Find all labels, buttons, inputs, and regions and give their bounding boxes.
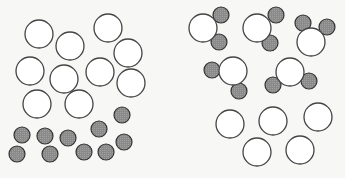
large-atom (286, 136, 314, 164)
reactants-panel (9, 14, 145, 162)
large-atom (94, 14, 122, 42)
small-atom (37, 128, 53, 144)
large-atom (297, 28, 325, 56)
small-atom (91, 121, 107, 137)
large-atom (259, 107, 287, 135)
products-panel (189, 7, 335, 166)
small-atom (9, 146, 25, 162)
large-atom (65, 90, 93, 118)
large-atom (25, 20, 53, 48)
small-atom (114, 107, 130, 123)
small-atom (98, 144, 114, 160)
small-atom (268, 7, 284, 23)
large-atom (304, 103, 332, 131)
small-atom (116, 134, 132, 150)
large-atom (243, 14, 271, 42)
molecule (189, 7, 229, 50)
large-atom (114, 39, 142, 67)
small-atom (14, 127, 30, 143)
large-atom (50, 65, 78, 93)
molecule (204, 57, 247, 99)
large-atom (189, 14, 217, 42)
small-atom (42, 146, 58, 162)
large-atom (117, 69, 145, 97)
molecule (265, 58, 317, 93)
particle-diagram (0, 0, 345, 178)
large-atom (219, 57, 247, 85)
small-atom (204, 62, 220, 78)
large-atom (16, 57, 44, 85)
small-atom (76, 144, 92, 160)
molecule (295, 15, 335, 56)
large-atom (86, 58, 114, 86)
large-atom (216, 110, 244, 138)
large-atom (23, 90, 51, 118)
large-atom (276, 58, 304, 86)
small-atom (60, 130, 76, 146)
molecule (243, 7, 284, 51)
large-atom (56, 32, 84, 60)
large-atom (243, 138, 271, 166)
